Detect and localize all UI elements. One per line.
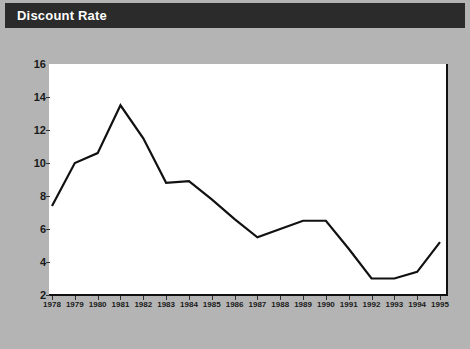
- y-axis-tick-label: 8: [2, 191, 46, 201]
- x-axis-tick-mark: [349, 296, 350, 300]
- x-axis-tick-mark: [440, 296, 441, 300]
- x-axis-tick-label: 1981: [112, 300, 130, 309]
- x-axis-tick-mark: [52, 296, 53, 300]
- y-axis-tick-label: 6: [2, 224, 46, 234]
- x-axis-tick-mark: [257, 296, 258, 300]
- x-axis-tick-label: 1982: [134, 300, 152, 309]
- page-title: Discount Rate: [5, 8, 107, 23]
- x-axis-tick-mark: [303, 296, 304, 300]
- x-axis-tick-mark: [394, 296, 395, 300]
- x-axis-tick-mark: [120, 296, 121, 300]
- x-axis-tick-label: 1989: [294, 300, 312, 309]
- x-axis-tick-mark: [326, 296, 327, 300]
- x-axis-tick-mark: [235, 296, 236, 300]
- x-axis-tick-label: 1991: [340, 300, 358, 309]
- x-axis-tick-label: 1983: [157, 300, 175, 309]
- x-axis-tick-mark: [75, 296, 76, 300]
- axis-right-border: [446, 64, 448, 296]
- y-axis-tick-mark: [46, 196, 50, 197]
- title-bar: Discount Rate: [5, 3, 465, 28]
- x-axis-labels: 1978197919801981198219831984198519861987…: [0, 300, 470, 320]
- x-axis-tick-mark: [143, 296, 144, 300]
- y-axis-tick-mark: [46, 163, 50, 164]
- x-axis-tick-label: 1984: [180, 300, 198, 309]
- y-axis-tick-label: 2: [2, 290, 46, 300]
- x-axis-tick-label: 1994: [408, 300, 426, 309]
- x-axis-tick-label: 1979: [66, 300, 84, 309]
- x-axis-tick-label: 1978: [43, 300, 61, 309]
- x-axis-tick-mark: [212, 296, 213, 300]
- x-axis-tick-label: 1992: [363, 300, 381, 309]
- x-axis-tick-label: 1988: [271, 300, 289, 309]
- x-axis-tick-label: 1980: [89, 300, 107, 309]
- x-axis-tick-mark: [417, 296, 418, 300]
- x-axis-tick-label: 1987: [249, 300, 267, 309]
- x-axis-tick-label: 1990: [317, 300, 335, 309]
- y-axis-tick-mark: [46, 130, 50, 131]
- axis-x-line: [49, 294, 448, 296]
- chart-container: 246810121416 197819791980198119821983198…: [0, 30, 470, 349]
- x-axis-tick-label: 1995: [431, 300, 449, 309]
- y-axis-tick-label: 10: [2, 158, 46, 168]
- y-axis-tick-label: 4: [2, 257, 46, 267]
- x-axis-tick-label: 1986: [226, 300, 244, 309]
- x-axis-tick-mark: [98, 296, 99, 300]
- y-axis-tick-label: 14: [2, 92, 46, 102]
- x-axis-tick-label: 1993: [385, 300, 403, 309]
- plot-area: [49, 64, 447, 295]
- x-axis-tick-mark: [280, 296, 281, 300]
- y-axis-tick-mark: [46, 97, 50, 98]
- x-axis-tick-label: 1985: [203, 300, 221, 309]
- x-axis-tick-mark: [166, 296, 167, 300]
- y-axis-tick-mark: [46, 262, 50, 263]
- y-axis-tick-label: 16: [2, 59, 46, 69]
- y-axis-tick-label: 12: [2, 125, 46, 135]
- x-axis-tick-mark: [372, 296, 373, 300]
- y-axis-tick-mark: [46, 229, 50, 230]
- y-axis-tick-mark: [46, 295, 50, 296]
- x-axis-tick-mark: [189, 296, 190, 300]
